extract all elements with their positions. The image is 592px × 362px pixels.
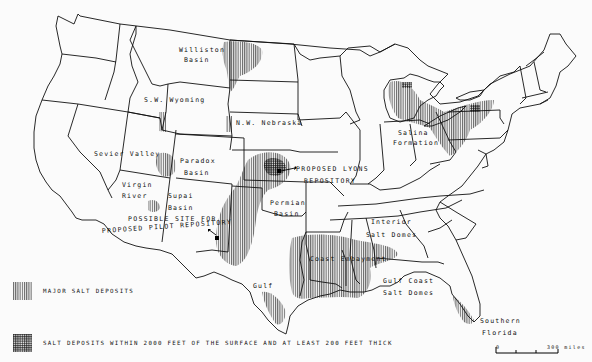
- label-gulf: Gulf: [253, 283, 273, 290]
- crosshatch-swatch: [13, 334, 32, 352]
- legend-label-shallow-thick-salt: SALT DEPOSITS WITHIN 2000 FEET OF THE SU…: [43, 340, 393, 346]
- label-virgin-1: Virgin: [122, 182, 153, 189]
- label-lyons-1: PROPOSED LYONS: [296, 166, 369, 173]
- label-williston-2: Basin: [184, 57, 210, 64]
- label-sw-wyoming: S.W. Wyoming: [144, 97, 205, 104]
- label-lyons-2: REPOSITORY: [304, 178, 356, 185]
- label-interior-2: Salt Domes: [366, 232, 417, 239]
- label-supai-1: Supai: [168, 193, 194, 200]
- deposit-coast-embayment: [289, 234, 398, 298]
- label-southern-florida-1: Southern: [480, 318, 521, 325]
- label-salina-1: Salina: [398, 130, 429, 137]
- label-williston-1: Williston: [179, 47, 225, 54]
- scale-bar: [494, 345, 564, 355]
- label-permian-2: Basin: [274, 211, 300, 218]
- xdeposit-michigan: [402, 82, 412, 88]
- legend-item-major-salt: MAJOR SALT DEPOSITS: [13, 282, 134, 300]
- label-interior-1: Interior: [371, 219, 412, 226]
- label-salina-2: Formation: [393, 140, 439, 147]
- label-southern-florida-2: Florida: [482, 330, 518, 337]
- vertical-hatch-swatch: [13, 282, 32, 300]
- us-salt-deposits-map: [0, 0, 592, 362]
- label-permian-1: Permian: [270, 200, 306, 207]
- label-paradox-1: Paradox: [180, 158, 216, 165]
- pilot-site-marker: [208, 229, 222, 243]
- label-gulf-coast-1: Gulf Coast: [383, 278, 434, 285]
- deposit-gulf: [262, 292, 286, 325]
- lyons-site-marker: [276, 166, 298, 176]
- deposit-williston: [223, 41, 263, 92]
- legend-label-major-salt: MAJOR SALT DEPOSITS: [43, 288, 134, 294]
- label-coast-embayment: Coast Embayment: [310, 256, 387, 263]
- label-paradox-2: Basin: [184, 170, 210, 177]
- deposit-supai: [148, 200, 160, 212]
- legend-item-shallow-thick-salt: SALT DEPOSITS WITHIN 2000 FEET OF THE SU…: [13, 334, 393, 352]
- label-supai-2: Basin: [168, 205, 194, 212]
- label-gulf-coast-2: Salt Domes: [383, 290, 434, 297]
- label-virgin-2: River: [122, 193, 148, 200]
- label-nw-nebraska: N.W. Nebraska: [236, 120, 302, 127]
- label-sevier: Sevier Valley: [94, 151, 160, 158]
